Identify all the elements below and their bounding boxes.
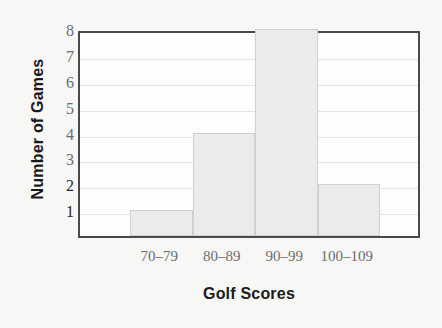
y-axis-title: Number of Games [29, 29, 47, 229]
bars-layer [80, 33, 418, 236]
x-tick-label-2: 90–99 [253, 248, 316, 265]
bar-80–89 [193, 133, 256, 237]
y-tick-label-1: 1 [52, 204, 74, 220]
y-tick-label-2: 2 [52, 178, 74, 194]
x-tick-label-1: 80–89 [191, 248, 254, 265]
y-tick-label-8: 8 [52, 23, 74, 39]
x-tick-label-0: 70–79 [128, 248, 191, 265]
y-tick-label-7: 7 [52, 49, 74, 65]
x-axis-tick-labels: 70–7980–8990–99100–109 [78, 248, 420, 272]
plot-area [78, 31, 420, 238]
y-tick-label-5: 5 [52, 101, 74, 117]
x-axis-title: Golf Scores [78, 285, 420, 303]
bar-90–99 [255, 29, 318, 236]
y-tick-label-3: 3 [52, 152, 74, 168]
bar-100–109 [318, 184, 381, 236]
x-tick-label-3: 100–109 [316, 248, 379, 265]
histogram-chart: Number of Games 87654321 70–7980–8990–99… [0, 0, 442, 328]
y-axis-tick-labels: 87654321 [52, 31, 74, 238]
bar-70–79 [130, 210, 193, 236]
y-tick-label-4: 4 [52, 127, 74, 143]
y-tick-label-6: 6 [52, 75, 74, 91]
